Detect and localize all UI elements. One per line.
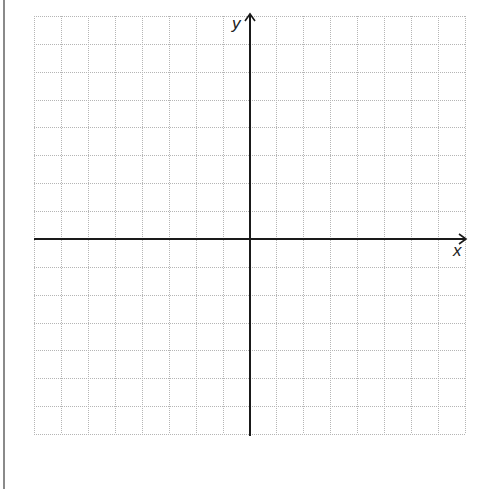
y-axis-label: y <box>232 14 241 34</box>
x-axis-label: x <box>453 241 462 261</box>
coordinate-grid <box>0 0 483 489</box>
